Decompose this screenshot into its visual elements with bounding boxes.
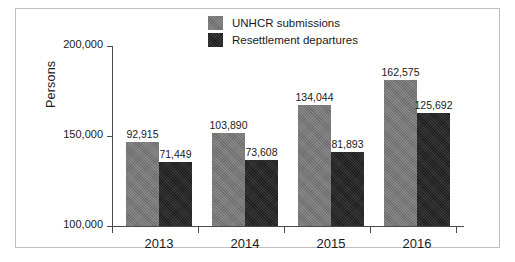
legend-label-resettlement-departures: Resettlement departures xyxy=(232,33,358,47)
legend-swatch-dark-icon xyxy=(208,33,223,47)
legend-item-unhcr-submissions: UNHCR submissions xyxy=(208,14,458,31)
x-tick-mark xyxy=(112,227,113,233)
bar-value-label: 92,915 xyxy=(126,128,158,140)
legend-label-unhcr-submissions: UNHCR submissions xyxy=(232,16,340,30)
y-tick-label-100000: 100,000 xyxy=(63,218,103,230)
bar-2014-unhcr-submissions: 103,890 xyxy=(212,133,245,227)
y-tick-label-200000: 200,000 xyxy=(63,38,103,50)
x-axis-label-2016: 2016 xyxy=(403,236,432,251)
x-tick-mark xyxy=(284,227,285,233)
bar-2016-unhcr-submissions: 162,575 xyxy=(384,80,417,226)
chart-legend: UNHCR submissions Resettlement departure… xyxy=(208,14,458,48)
x-axis-line xyxy=(112,226,464,227)
bar-2013-unhcr-submissions: 92,915 xyxy=(126,142,159,226)
x-tick-mark xyxy=(198,227,199,233)
bar-2015-resettlement-departures: 81,893 xyxy=(331,152,364,226)
bar-value-label: 71,449 xyxy=(159,148,191,160)
bar-2016-resettlement-departures: 125,692 xyxy=(417,113,450,226)
bar-2014-resettlement-departures: 73,608 xyxy=(245,160,278,226)
x-axis-label-2014: 2014 xyxy=(231,236,260,251)
bar-chart-figure: UNHCR submissions Resettlement departure… xyxy=(0,0,515,262)
bar-2013-resettlement-departures: 71,449 xyxy=(159,162,192,226)
y-tick-label-150000: 150,000 xyxy=(63,128,103,140)
y-tick-mark xyxy=(107,136,113,137)
bar-value-label: 81,893 xyxy=(331,138,363,150)
y-axis-title: Persons xyxy=(44,61,58,108)
x-axis-label-2013: 2013 xyxy=(145,236,174,251)
bar-value-label: 134,044 xyxy=(296,91,334,103)
legend-swatch-gray-icon xyxy=(208,16,223,30)
x-tick-mark xyxy=(456,227,457,233)
x-tick-mark xyxy=(370,227,371,233)
plot-area: 200,000 150,000 100,000 50,000 0 92,915 xyxy=(112,46,464,226)
y-tick-mark xyxy=(107,46,113,47)
bar-value-label: 162,575 xyxy=(382,66,420,78)
bar-value-label: 125,692 xyxy=(415,99,453,111)
x-axis-label-2015: 2015 xyxy=(317,236,346,251)
bar-value-label: 73,608 xyxy=(245,146,277,158)
bar-value-label: 103,890 xyxy=(210,119,248,131)
bar-2015-unhcr-submissions: 134,044 xyxy=(298,105,331,226)
